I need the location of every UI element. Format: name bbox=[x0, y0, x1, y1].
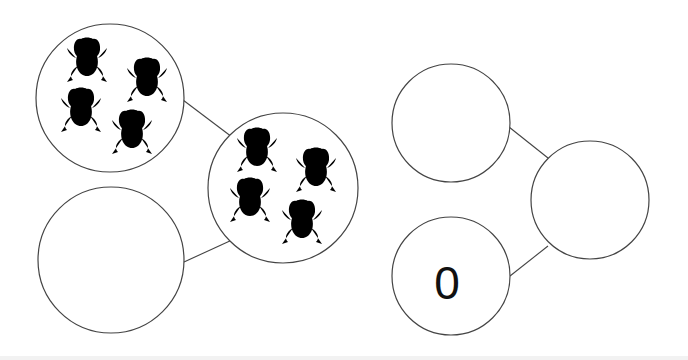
bottom-divider bbox=[0, 356, 688, 360]
whole-circle-empty[interactable] bbox=[531, 141, 649, 259]
connector-line-bottom bbox=[510, 246, 548, 276]
part-circle-top-frogs[interactable] bbox=[36, 24, 184, 172]
part-circle-top-empty[interactable] bbox=[392, 64, 510, 182]
part-value-text: 0 bbox=[434, 257, 460, 309]
right-number-bond: 0 bbox=[392, 64, 649, 335]
connector-line-top bbox=[183, 100, 232, 137]
part-circle-bottom-zero[interactable]: 0 bbox=[392, 217, 510, 335]
connector-line-top bbox=[509, 127, 548, 158]
number-bond-canvas: 0 bbox=[0, 0, 688, 360]
left-number-bond bbox=[36, 24, 358, 333]
part-circle-bottom-empty[interactable] bbox=[38, 187, 184, 333]
connector-line-bottom bbox=[184, 240, 232, 262]
whole-circle-frogs[interactable] bbox=[208, 113, 358, 263]
